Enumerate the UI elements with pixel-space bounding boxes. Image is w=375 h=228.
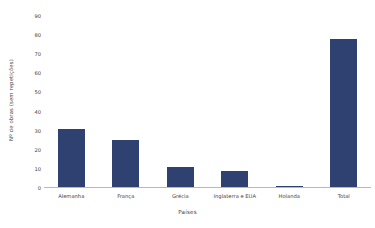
y-tick-label: 0 xyxy=(25,185,41,191)
y-tick-label: 60 xyxy=(25,70,41,76)
bar-group: Total xyxy=(330,16,357,188)
bar-group: Alemanha xyxy=(58,16,85,188)
bar[interactable] xyxy=(112,140,139,188)
bar[interactable] xyxy=(58,129,85,188)
y-tick-label: 40 xyxy=(25,109,41,115)
y-axis-title: Nº de obras (sem repetições) xyxy=(2,0,20,200)
bar-group: França xyxy=(112,16,139,188)
bar-group: Grécia xyxy=(167,16,194,188)
x-axis-line xyxy=(44,187,371,188)
x-axis-title: Países xyxy=(0,209,375,215)
y-tick-label: 10 xyxy=(25,166,41,172)
y-tick-label: 70 xyxy=(25,51,41,57)
bar[interactable] xyxy=(330,39,357,188)
x-tick-label: Grécia xyxy=(172,193,189,199)
y-axis-title-text: Nº de obras (sem repetições) xyxy=(8,59,14,141)
bar-chart-figure: Nº de obras (sem repetições) 01020304050… xyxy=(0,0,375,228)
x-tick-label: Inglaterra e EUA xyxy=(214,193,256,199)
y-tick-label: 80 xyxy=(25,32,41,38)
bar-group: Inglaterra e EUA xyxy=(221,16,248,188)
y-tick-label: 90 xyxy=(25,13,41,19)
x-tick-label: Total xyxy=(338,193,350,199)
plot-area: 0102030405060708090 AlemanhaFrançaGrécia… xyxy=(44,16,371,188)
x-tick-label: Alemanha xyxy=(58,193,84,199)
bar[interactable] xyxy=(221,171,248,188)
y-tick-label: 30 xyxy=(25,128,41,134)
x-tick-label: França xyxy=(117,193,134,199)
y-tick-label: 20 xyxy=(25,147,41,153)
x-tick-label: Holanda xyxy=(279,193,300,199)
y-tick-label: 50 xyxy=(25,89,41,95)
bar[interactable] xyxy=(167,167,194,188)
bar-group: Holanda xyxy=(276,16,303,188)
